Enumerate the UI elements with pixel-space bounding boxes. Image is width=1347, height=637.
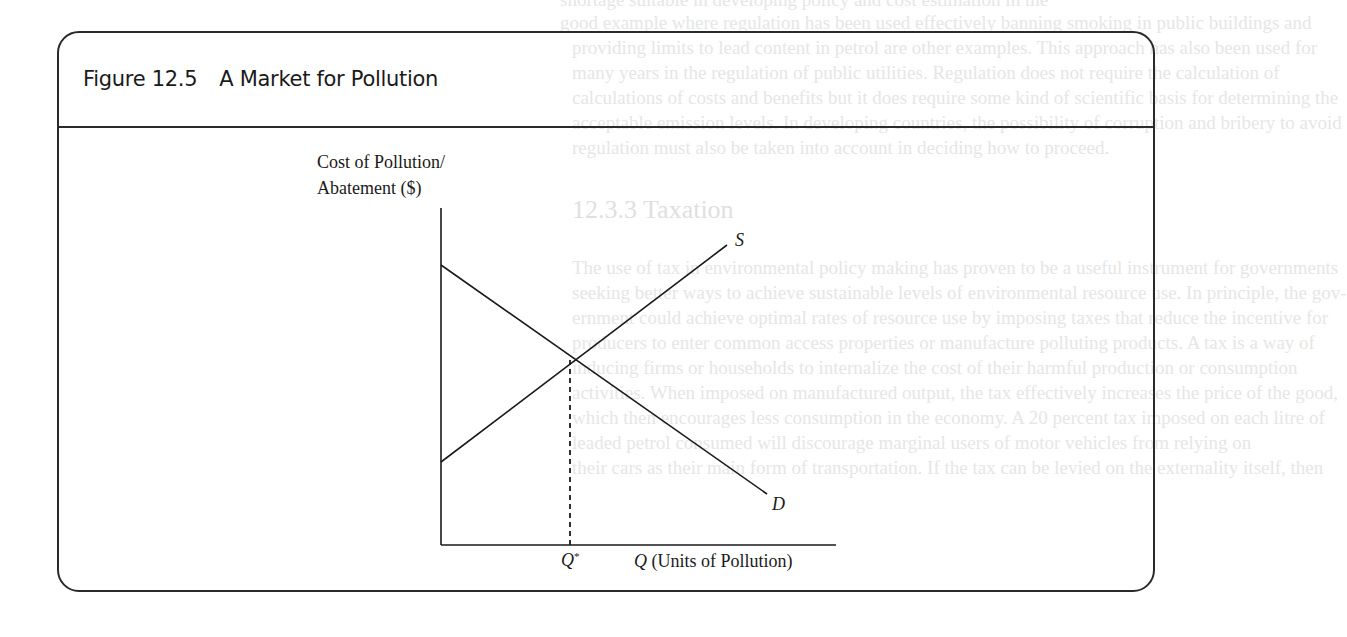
q-star-var: Q [561, 550, 574, 570]
demand-curve [441, 265, 767, 494]
x-axis-var: Q [634, 551, 647, 571]
y-axis-label-line2: Abatement ($) [317, 175, 445, 201]
y-axis-label-line1: Cost of Pollution/ [317, 149, 445, 175]
equilibrium-quantity-label: Q* [561, 550, 580, 571]
supply-curve [441, 245, 727, 462]
x-axis-text: (Units of Pollution) [652, 551, 793, 571]
supply-label: S [735, 230, 744, 251]
y-axis-label: Cost of Pollution/ Abatement ($) [317, 149, 445, 201]
x-axis-label: Q (Units of Pollution) [634, 551, 793, 572]
q-star-sup: * [574, 550, 580, 562]
demand-label: D [772, 494, 785, 515]
